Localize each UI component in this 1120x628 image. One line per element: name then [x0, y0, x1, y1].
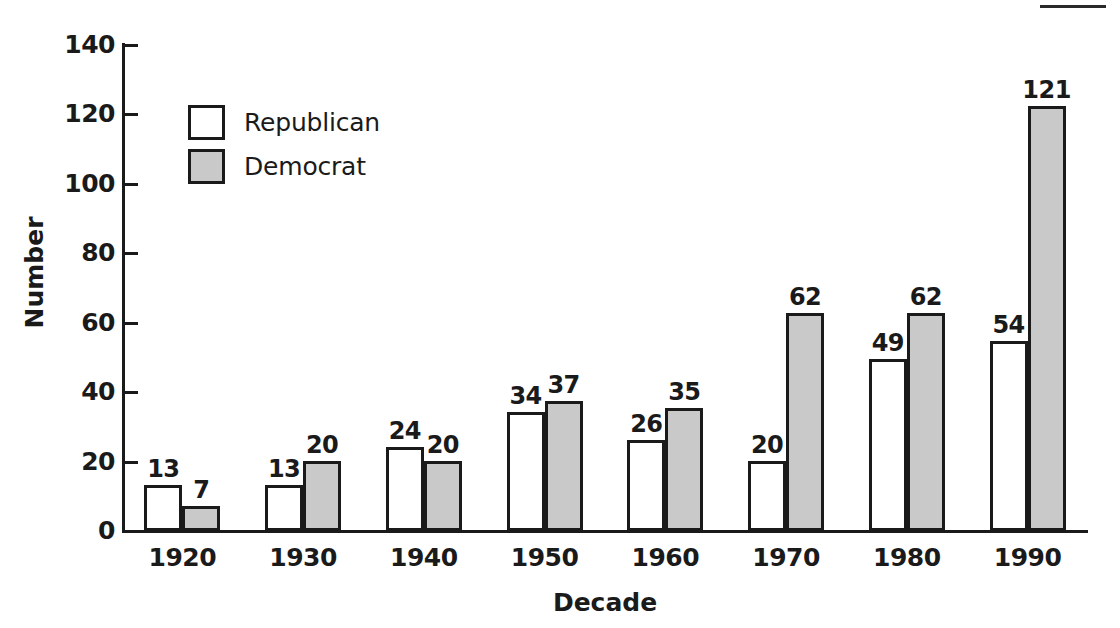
- bar-republican-1940: [386, 447, 424, 531]
- bar-democrat-1920: [182, 506, 220, 531]
- y-tick-100: [125, 183, 138, 186]
- y-axis-title: Number: [20, 213, 49, 333]
- y-tick-label-120: 120: [45, 101, 115, 126]
- x-tick-label-1930: 1930: [243, 543, 363, 572]
- y-tick-120: [125, 113, 138, 116]
- y-tick-label-20: 20: [45, 449, 115, 474]
- bar-democrat-1960: [665, 408, 703, 531]
- x-axis-title: Decade: [122, 588, 1088, 617]
- y-tick-label-100: 100: [45, 171, 115, 196]
- page-edge-rule: [1040, 5, 1106, 8]
- bar-republican-1950: [507, 412, 545, 531]
- bar-republican-1970: [748, 461, 786, 531]
- bar-value-democrat-1960: 35: [649, 378, 719, 406]
- bar-republican-1930: [265, 485, 303, 531]
- legend-item-democrat: Democrat: [188, 147, 380, 185]
- legend-swatch-republican: [188, 105, 225, 140]
- y-axis-ticks: 020406080100120140: [0, 0, 115, 628]
- x-tick-label-1950: 1950: [485, 543, 605, 572]
- y-tick-label-40: 40: [45, 379, 115, 404]
- legend-label-republican: Republican: [244, 108, 380, 137]
- y-tick-label-0: 0: [45, 518, 115, 543]
- y-tick-label-140: 140: [45, 32, 115, 57]
- y-tick-0: [125, 530, 138, 533]
- bar-democrat-1950: [545, 401, 583, 531]
- bar-democrat-1990: [1028, 106, 1066, 531]
- y-tick-40: [125, 391, 138, 394]
- x-tick-label-1980: 1980: [847, 543, 967, 572]
- bar-value-democrat-1940: 20: [408, 431, 478, 459]
- y-tick-140: [125, 44, 138, 47]
- y-tick-60: [125, 322, 138, 325]
- legend-label-democrat: Democrat: [244, 152, 366, 181]
- legend-item-republican: Republican: [188, 103, 380, 141]
- bar-republican-1980: [869, 359, 907, 531]
- bar-democrat-1930: [303, 461, 341, 531]
- x-tick-label-1990: 1990: [968, 543, 1088, 572]
- bar-value-democrat-1990: 121: [1012, 76, 1082, 104]
- bar-value-democrat-1970: 62: [770, 283, 840, 311]
- bar-democrat-1970: [786, 313, 824, 531]
- bar-value-democrat-1980: 62: [891, 283, 961, 311]
- x-tick-label-1940: 1940: [364, 543, 484, 572]
- bar-republican-1990: [990, 341, 1028, 531]
- chart-legend: Republican Democrat: [188, 103, 380, 191]
- bar-value-democrat-1920: 7: [166, 476, 236, 504]
- bar-chart-figure: 020406080100120140 Number Decade Republi…: [0, 0, 1120, 628]
- y-tick-label-60: 60: [45, 310, 115, 335]
- x-tick-label-1970: 1970: [726, 543, 846, 572]
- bar-value-democrat-1930: 20: [287, 431, 357, 459]
- bar-republican-1960: [627, 440, 665, 531]
- y-tick-80: [125, 252, 138, 255]
- x-tick-label-1920: 1920: [122, 543, 242, 572]
- bar-democrat-1980: [907, 313, 945, 531]
- y-tick-label-80: 80: [45, 240, 115, 265]
- bar-democrat-1940: [424, 461, 462, 531]
- x-tick-label-1960: 1960: [605, 543, 725, 572]
- bar-value-democrat-1950: 37: [529, 371, 599, 399]
- legend-swatch-democrat: [188, 149, 225, 184]
